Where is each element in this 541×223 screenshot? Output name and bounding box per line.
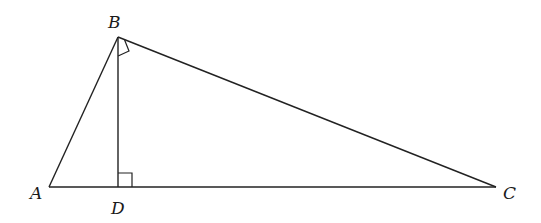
segment-ab [49,37,118,187]
segment-bc [118,37,496,187]
label-d: D [110,198,125,218]
label-b: B [107,12,121,32]
right-angle-marker-b [118,40,129,56]
label-c: C [503,183,516,203]
label-a: A [28,183,42,203]
right-angle-marker-d [118,173,132,187]
triangle-diagram: B A D C [0,0,541,223]
